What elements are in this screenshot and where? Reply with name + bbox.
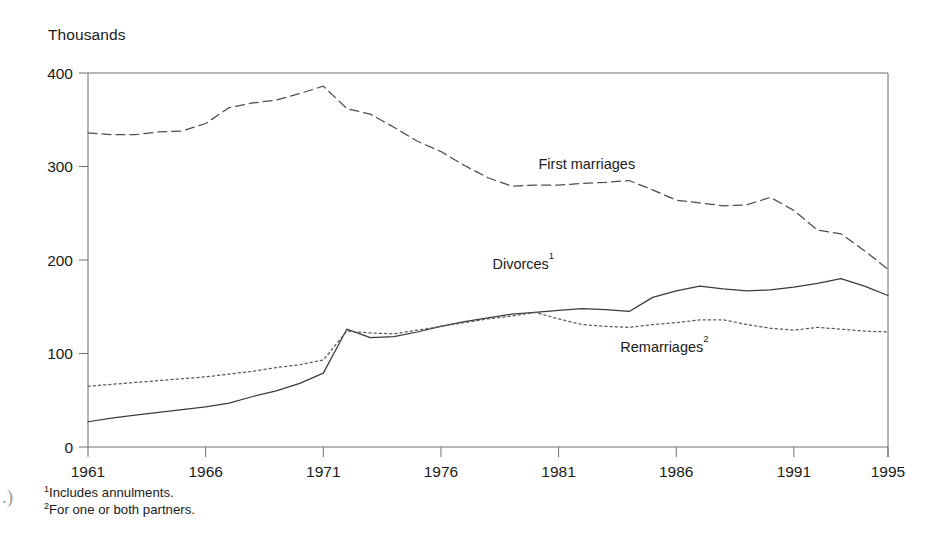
x-axis-tick-label: 1976	[424, 463, 458, 480]
chart-canvas: 0100200300400196119661971197619811986199…	[0, 0, 934, 533]
series-label-remarriages: Remarriages2	[620, 332, 708, 355]
x-axis-tick-label: 1961	[71, 463, 105, 480]
x-axis-tick-label: 1995	[871, 463, 905, 480]
y-axis-tick-label: 100	[47, 345, 73, 362]
series-line-divorces	[88, 279, 888, 422]
footnote-text: For one or both partners.	[49, 502, 195, 517]
x-axis-tick-label: 1966	[188, 463, 222, 480]
footnote-text: Includes annulments.	[49, 485, 174, 500]
series-line-remarriages	[88, 312, 888, 386]
x-axis-tick-label: 1981	[541, 463, 575, 480]
x-axis-tick-label: 1991	[777, 463, 811, 480]
y-axis-unit-label: Thousands	[48, 26, 126, 44]
series-layer	[88, 86, 888, 422]
series-label-first-marriages: First marriages	[538, 156, 635, 172]
series-label-divorces: Divorces1	[492, 250, 554, 273]
x-axis-tick-label: 1986	[659, 463, 693, 480]
axes-layer: 0100200300400196119661971197619811986199…	[47, 65, 905, 481]
y-axis-tick-label: 400	[47, 65, 73, 82]
series-line-first-marriages	[88, 86, 888, 269]
footnote-block: 1Includes annulments. 2For one or both p…	[44, 484, 195, 518]
y-axis-tick-label: 300	[47, 158, 73, 175]
marriage-divorce-line-chart: Thousands 010020030040019611966197119761…	[0, 0, 934, 533]
series-annotation-layer: First marriagesDivorces1Remarriages2	[492, 156, 708, 354]
x-axis-tick-label: 1971	[306, 463, 340, 480]
footnote-item: 2For one or both partners.	[44, 501, 195, 518]
y-axis-tick-label: 200	[47, 252, 73, 269]
footnote-item: 1Includes annulments.	[44, 484, 195, 501]
y-axis-tick-label: 0	[64, 439, 73, 456]
page-scan-artifact: .)	[2, 486, 13, 508]
